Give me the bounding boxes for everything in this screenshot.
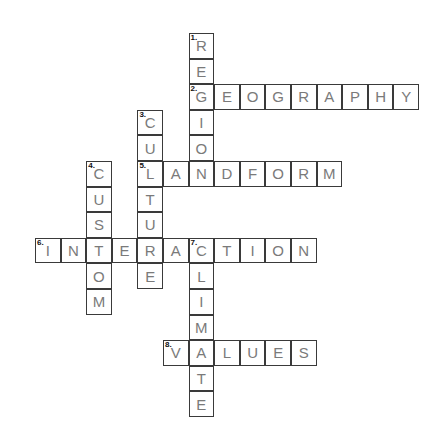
crossword-cell[interactable]: U <box>240 340 266 366</box>
crossword-cell[interactable]: O <box>86 263 112 289</box>
crossword-cell[interactable]: D <box>214 161 240 187</box>
cell-letter: A <box>196 344 206 361</box>
crossword-cell[interactable]: U <box>86 187 112 213</box>
cell-letter: O <box>93 268 105 285</box>
cell-letter: M <box>195 319 208 336</box>
crossword-cell[interactable]: R <box>291 84 317 110</box>
crossword-cell[interactable]: A <box>189 340 215 366</box>
crossword-cell[interactable]: L <box>189 263 215 289</box>
cell-letter: D <box>222 165 233 182</box>
crossword-cell[interactable]: C4. <box>86 161 112 187</box>
crossword-cell[interactable]: R <box>137 238 163 264</box>
cell-letter: H <box>375 88 386 105</box>
cell-letter: N <box>68 242 79 259</box>
cell-letter: E <box>196 63 206 80</box>
cell-letter: N <box>298 242 309 259</box>
crossword-cell[interactable]: A <box>163 238 189 264</box>
crossword-cell[interactable]: N <box>61 238 87 264</box>
crossword-cell[interactable]: M <box>317 161 343 187</box>
crossword-cell[interactable]: E <box>112 238 138 264</box>
crossword-cell[interactable]: P <box>342 84 368 110</box>
crossword-cell[interactable]: R <box>291 161 317 187</box>
crossword-cell[interactable]: C7. <box>189 238 215 264</box>
crossword-cell[interactable]: A <box>163 161 189 187</box>
cell-letter: P <box>350 88 360 105</box>
cell-letter: O <box>272 165 284 182</box>
clue-number: 4. <box>88 161 95 170</box>
cell-letter: E <box>145 268 155 285</box>
crossword-cell[interactable]: I6. <box>35 238 61 264</box>
cell-letter: R <box>196 37 207 54</box>
cell-letter: S <box>94 216 104 233</box>
crossword-cell[interactable]: M <box>86 289 112 315</box>
cell-letter: V <box>171 344 181 361</box>
crossword-cell[interactable]: O <box>265 238 291 264</box>
cell-letter: I <box>46 242 50 259</box>
cell-letter: U <box>145 216 156 233</box>
crossword-cell[interactable]: F <box>240 161 266 187</box>
cell-letter: R <box>145 242 156 259</box>
cell-letter: T <box>197 370 206 387</box>
crossword-cell[interactable]: G2. <box>189 84 215 110</box>
crossword-cell[interactable]: L5. <box>137 161 163 187</box>
cell-letter: C <box>94 165 105 182</box>
clue-number: 6. <box>37 238 44 247</box>
crossword-cell[interactable]: T <box>214 238 240 264</box>
crossword-cell[interactable]: E <box>189 59 215 85</box>
crossword-cell[interactable]: S <box>86 212 112 238</box>
crossword-cell[interactable]: G <box>265 84 291 110</box>
crossword-cell[interactable]: N <box>189 161 215 187</box>
crossword-cell[interactable]: E <box>265 340 291 366</box>
crossword-cell[interactable]: O <box>189 135 215 161</box>
crossword-cell[interactable]: U <box>137 135 163 161</box>
clue-number: 7. <box>191 238 198 247</box>
crossword-cell[interactable]: I <box>189 289 215 315</box>
crossword-cell[interactable]: V8. <box>163 340 189 366</box>
crossword-grid: R1.EG2.IONEOGRAPHYC3.UL5.TUREC4.USTOMADF… <box>0 0 446 440</box>
cell-letter: O <box>196 140 208 157</box>
crossword-cell[interactable]: E <box>189 391 215 417</box>
cell-letter: T <box>94 242 103 259</box>
cell-letter: S <box>299 344 309 361</box>
cell-letter: L <box>197 268 205 285</box>
crossword-cell[interactable]: U <box>137 212 163 238</box>
crossword-cell[interactable]: E <box>137 263 163 289</box>
cell-letter: F <box>248 165 257 182</box>
clue-number: 3. <box>139 110 146 119</box>
cell-letter: T <box>222 242 231 259</box>
crossword-cell[interactable]: H <box>368 84 394 110</box>
crossword-cell[interactable]: T <box>137 187 163 213</box>
crossword-cell[interactable]: I <box>189 110 215 136</box>
cell-letter: C <box>145 114 156 131</box>
cell-letter: R <box>298 165 309 182</box>
cell-letter: L <box>223 344 231 361</box>
crossword-cell[interactable]: L <box>214 340 240 366</box>
crossword-cell[interactable]: O <box>265 161 291 187</box>
cell-letter: N <box>196 165 207 182</box>
crossword-cell[interactable]: E <box>214 84 240 110</box>
cell-letter: T <box>146 191 155 208</box>
crossword-cell[interactable]: N <box>291 238 317 264</box>
crossword-cell[interactable]: I <box>240 238 266 264</box>
crossword-cell[interactable]: C3. <box>137 110 163 136</box>
cell-letter: R <box>298 88 309 105</box>
crossword-cell[interactable]: A <box>317 84 343 110</box>
crossword-cell[interactable]: T <box>189 366 215 392</box>
cell-letter: I <box>250 242 254 259</box>
crossword-cell[interactable]: S <box>291 340 317 366</box>
cell-letter: G <box>272 88 284 105</box>
cell-letter: E <box>120 242 130 259</box>
clue-number: 5. <box>139 161 146 170</box>
crossword-cell[interactable]: Y <box>393 84 419 110</box>
crossword-cell[interactable]: R1. <box>189 33 215 59</box>
cell-letter: U <box>145 140 156 157</box>
cell-letter: Y <box>401 88 411 105</box>
crossword-cell[interactable]: T <box>86 238 112 264</box>
cell-letter: A <box>324 88 334 105</box>
cell-letter: A <box>171 165 181 182</box>
cell-letter: O <box>272 242 284 259</box>
crossword-cell[interactable]: O <box>240 84 266 110</box>
clue-number: 2. <box>191 84 198 93</box>
cell-letter: E <box>196 396 206 413</box>
crossword-cell[interactable]: M <box>189 315 215 341</box>
